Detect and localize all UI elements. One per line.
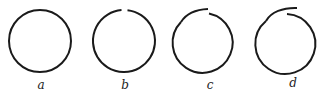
panel-b: b	[93, 10, 155, 92]
panel-d: d	[255, 8, 315, 90]
overlapping-circle-arc	[173, 14, 233, 73]
outer-arc-end	[181, 9, 208, 22]
panel-label-b: b	[121, 78, 129, 92]
closed-circle	[9, 10, 71, 72]
panel-c: c	[173, 9, 233, 92]
gapped-circle-arc	[93, 10, 155, 72]
circles-figure: a b c d	[0, 0, 333, 94]
panel-label-a: a	[37, 78, 44, 92]
panel-label-c: c	[207, 78, 214, 92]
panel-a: a	[9, 10, 71, 92]
panel-label-d: d	[289, 76, 297, 90]
overlapping-circle-arc	[255, 14, 315, 74]
